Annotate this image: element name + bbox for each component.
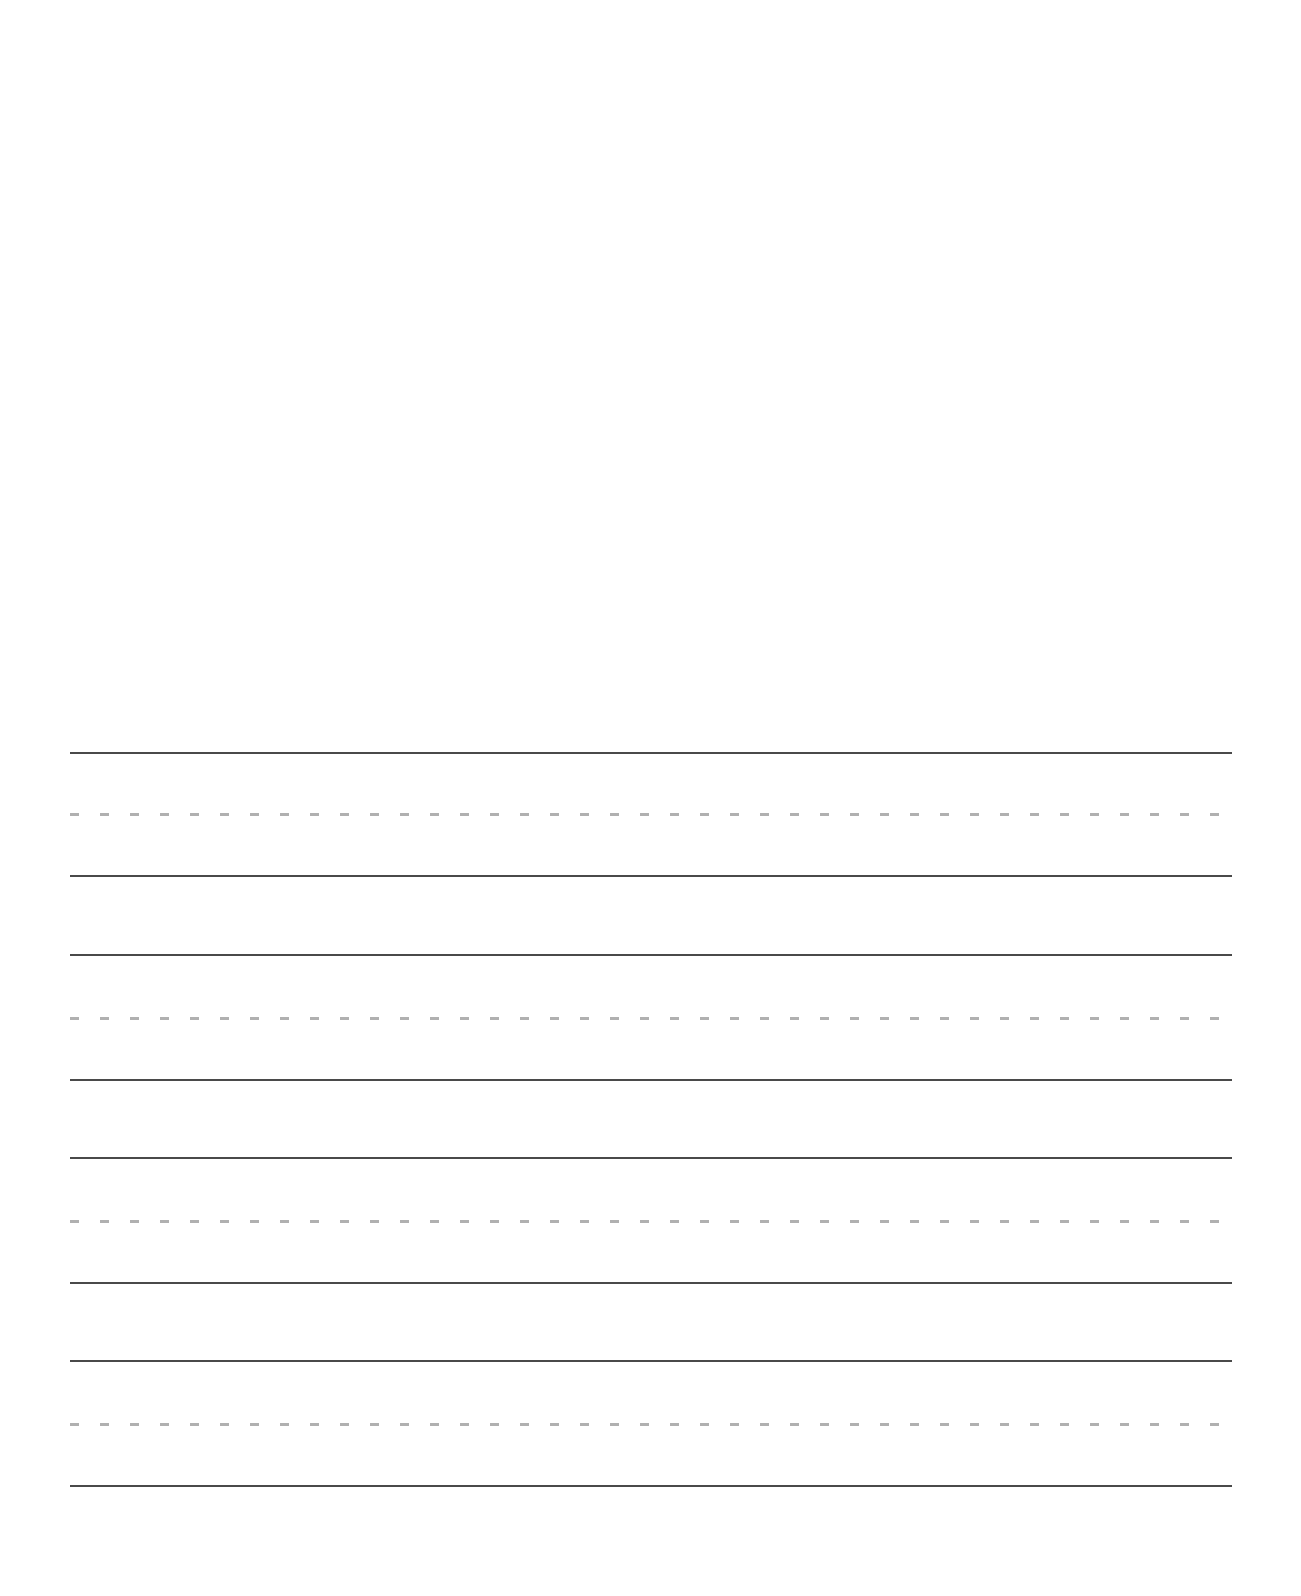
top-guide-line (70, 954, 1232, 956)
top-guide-line (70, 1360, 1232, 1362)
midline-guide (70, 1220, 1232, 1223)
baseline-guide (70, 1079, 1232, 1081)
baseline-guide (70, 875, 1232, 877)
baseline-guide (70, 1485, 1232, 1487)
blank-drawing-area (70, 0, 1232, 730)
top-guide-line (70, 752, 1232, 754)
midline-guide (70, 813, 1232, 816)
midline-guide (70, 1017, 1232, 1020)
baseline-guide (70, 1282, 1232, 1284)
midline-guide (70, 1423, 1232, 1426)
top-guide-line (70, 1157, 1232, 1159)
